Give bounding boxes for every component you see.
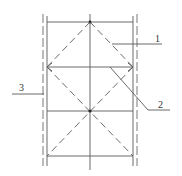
callout-label-2: 2 [158, 99, 163, 110]
truss-diagram: 1 2 3 [0, 0, 182, 176]
callout-labels: 1 2 3 [19, 33, 163, 110]
callout-label-1: 1 [155, 33, 160, 44]
vertical-members [47, 14, 133, 170]
node-top [89, 21, 92, 24]
callout-label-3: 3 [19, 82, 24, 93]
leader-lines [12, 44, 170, 110]
diagonal-top-right [90, 22, 133, 67]
node-center [88, 109, 91, 112]
diagonal-top-left [47, 22, 90, 67]
